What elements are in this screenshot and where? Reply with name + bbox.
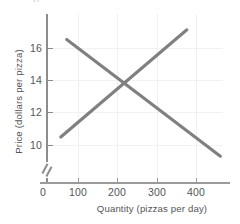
- gridline-vertical-400: [196, 14, 197, 182]
- gridline-vertical-300: [157, 14, 158, 182]
- x-axis-title: Quantity (pizzas per day): [68, 203, 236, 214]
- x-tick-label-200: 200: [97, 186, 137, 198]
- x-axis-line: [40, 182, 230, 184]
- y-tick-10: [48, 145, 53, 146]
- y-tick-12: [48, 112, 53, 113]
- y-axis-title: Price (dollars per pizza): [13, 32, 24, 172]
- y-axis-line: [46, 14, 48, 162]
- gridline-vertical-200: [117, 14, 118, 182]
- y-tick-16: [48, 48, 53, 49]
- x-tick-300: [157, 178, 158, 183]
- x-tick-label-400: 400: [176, 186, 216, 198]
- cropped-text-above-figure: p: [33, 0, 39, 2]
- gridline-horizontal-16: [47, 48, 223, 49]
- supply-demand-chart: p 16 14 12 10 0 100 200 300 400 Price: [0, 0, 240, 224]
- gridline-horizontal-12: [47, 112, 223, 113]
- gridline-vertical-100: [78, 14, 79, 182]
- y-tick-14: [48, 80, 53, 81]
- plot-area: [47, 14, 223, 182]
- x-tick-label-100: 100: [58, 186, 98, 198]
- gridline-horizontal-10: [47, 145, 223, 146]
- x-tick-label-0: 0: [23, 186, 63, 198]
- gridline-horizontal-14: [47, 80, 223, 81]
- x-tick-200: [117, 178, 118, 183]
- x-tick-100: [78, 178, 79, 183]
- x-tick-label-300: 300: [137, 186, 177, 198]
- x-tick-400: [196, 178, 197, 183]
